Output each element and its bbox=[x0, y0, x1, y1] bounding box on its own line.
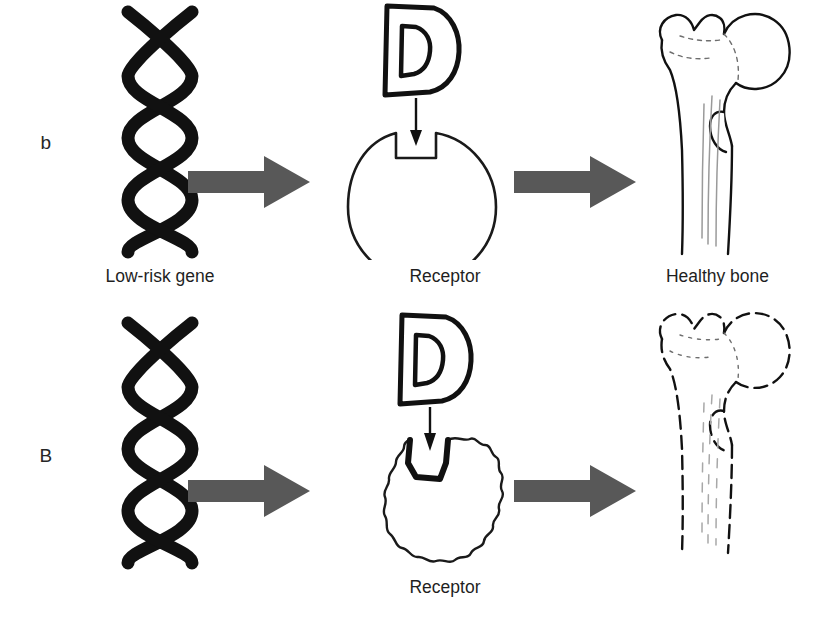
figure-row-high-risk: B High-risk gene bbox=[0, 311, 815, 621]
bone-cell-healthy: Healthy bone bbox=[620, 0, 815, 310]
binding-arrow-down-icon bbox=[410, 98, 422, 146]
vitamin-d-ligand-icon bbox=[385, 6, 459, 95]
receptor-smooth-icon bbox=[348, 133, 496, 260]
bone-cell-fragile: Fragile bone bbox=[620, 311, 815, 621]
receptor-wavy-icon bbox=[384, 438, 503, 562]
flow-arrow-right-icon bbox=[186, 459, 316, 523]
femur-healthy-icon bbox=[620, 0, 815, 262]
receptor-notch-mismatch bbox=[408, 440, 448, 479]
vitamin-d-ligand-icon bbox=[400, 315, 471, 404]
vitamin-d-receptor-genotype-figure: b Low-risk gene bbox=[0, 0, 815, 621]
femur-fragile-icon bbox=[620, 311, 815, 573]
femur-head-stipple bbox=[670, 333, 738, 379]
flow-arrow-cell-1-high-risk bbox=[186, 311, 316, 621]
figure-row-low-risk: b Low-risk gene bbox=[0, 0, 815, 310]
binding-arrow-down-icon bbox=[424, 407, 436, 451]
flow-arrow-cell-1-low-risk bbox=[186, 0, 316, 310]
flow-arrow-right-icon bbox=[186, 150, 316, 214]
bone-label-healthy: Healthy bone bbox=[620, 267, 815, 286]
